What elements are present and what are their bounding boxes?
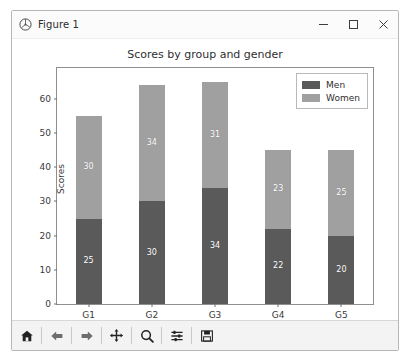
toolbar-separator [161,327,162,344]
y-tick-mark [54,304,57,305]
legend-item: Men [302,78,360,91]
x-tick-label: G5 [335,310,348,320]
toolbar-separator [191,327,192,344]
bar-value-label: 23 [273,185,283,193]
bar-segment[interactable]: 30 [139,201,165,304]
toolbar-separator [101,327,102,344]
bar-value-label: 30 [84,163,94,171]
bar-stack[interactable]: 2223 [265,68,291,304]
legend-label: Men [326,80,345,90]
legend-label: Women [326,93,360,103]
pan-move-icon[interactable] [105,324,128,347]
y-tick-mark [54,235,57,236]
y-tick-mark [54,167,57,168]
x-tick-mark [215,304,216,307]
home-icon[interactable] [15,324,38,347]
window-title: Figure 1 [38,19,308,30]
save-floppy-icon[interactable] [195,324,218,347]
minimize-icon[interactable] [308,11,338,39]
toolbar-separator [71,327,72,344]
navigation-toolbar [12,320,398,350]
bar-segment[interactable]: 34 [139,85,165,201]
toolbar-separator [41,327,42,344]
zoom-magnifier-icon[interactable] [135,324,158,347]
plot-axes: Scores 0102030405060 G1G2G3G4G5 25303034… [56,67,374,305]
x-tick-mark [151,304,152,307]
legend-swatch [302,94,320,102]
bar-segment[interactable]: 20 [328,236,354,304]
bar-value-label: 22 [273,262,283,270]
bar-segment[interactable]: 30 [76,116,102,219]
window-titlebar[interactable]: Figure 1 [12,11,398,39]
bar-segment[interactable]: 31 [202,82,228,188]
bar-segment[interactable]: 25 [328,150,354,236]
bar-value-label: 30 [147,249,157,257]
bar-segment[interactable]: 22 [265,229,291,304]
y-tick-mark [54,132,57,133]
bar-value-label: 34 [210,242,220,250]
window-controls [308,11,398,39]
close-icon[interactable] [368,11,398,39]
bar-value-label: 31 [210,131,220,139]
chart-title: Scores by group and gender [12,48,398,61]
y-tick-mark [54,269,57,270]
x-tick-label: G1 [82,310,95,320]
bar-value-label: 34 [147,139,157,147]
bar-value-label: 25 [84,257,94,265]
toolbar-separator [131,327,132,344]
configure-subplots-icon[interactable] [165,324,188,347]
figure-window: Figure 1 Scores by group and gender Scor… [11,10,399,351]
bar-value-label: 25 [336,189,346,197]
bar-segment[interactable]: 25 [76,219,102,305]
matplotlib-icon [19,18,32,31]
bar-segment[interactable]: 23 [265,150,291,229]
bar-value-label: 20 [336,266,346,274]
bar-stack[interactable]: 2530 [76,68,102,304]
bar-stack[interactable]: 3034 [139,68,165,304]
y-tick-mark [54,98,57,99]
y-tick-mark [54,201,57,202]
maximize-icon[interactable] [338,11,368,39]
screenshot-root: Figure 1 Scores by group and gender Scor… [0,0,410,361]
forward-arrow-icon[interactable] [75,324,98,347]
x-tick-mark [278,304,279,307]
x-tick-mark [341,304,342,307]
x-tick-label: G2 [145,310,158,320]
bar-stack[interactable]: 3431 [202,68,228,304]
bar-segment[interactable]: 34 [202,188,228,304]
legend-item: Women [302,91,360,104]
figure-canvas[interactable]: Scores by group and gender Scores 010203… [12,39,398,320]
x-tick-mark [88,304,89,307]
y-axis-label: Scores [56,164,66,194]
x-tick-label: G3 [209,310,222,320]
legend-swatch [302,81,320,89]
x-tick-label: G4 [272,310,285,320]
chart-legend: MenWomen [296,73,368,109]
back-arrow-icon[interactable] [45,324,68,347]
